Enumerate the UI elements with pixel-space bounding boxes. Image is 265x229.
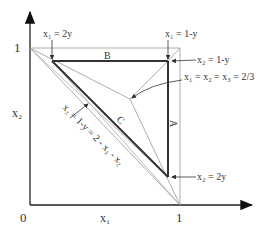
unit-square — [30, 48, 180, 205]
annotation-x1-1-y: x₁ = 1-y — [165, 28, 197, 39]
annotation-x2-2y: x₂ = 2y — [197, 171, 226, 182]
annotation-x1-2y: x₁ = 2y — [43, 28, 72, 39]
x-tick-1: 1 — [176, 210, 183, 225]
y-axis-label: x₂ — [12, 106, 22, 120]
annotation-diagonal: x₃ = 1-y = 2 - x₁ - x₂ — [61, 102, 127, 168]
region-B-label: B — [104, 50, 111, 61]
x-axis-label: x₁ — [100, 211, 110, 225]
annotation-centroid: x₁ = x₂ = x₃ = 2/3 — [184, 71, 254, 82]
y-tick-1: 1 — [14, 40, 21, 55]
region-A-label: A — [168, 120, 179, 128]
origin-label: 0 — [20, 210, 27, 225]
annotation-x2-1-y: x₂ = 1-y — [197, 54, 229, 65]
